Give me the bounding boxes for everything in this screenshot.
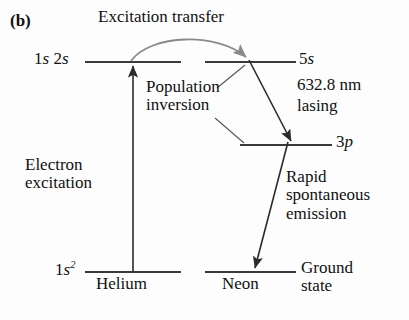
ground-state-label: Groundstate [301,259,353,296]
population-inversion-line-1: Population [146,77,220,96]
neon-3p-orbital: p [345,132,354,151]
neon-5s-orbital: s [308,49,315,68]
helium-ground-superscript: 2 [70,259,75,270]
ground-state-line-2: state [301,276,332,295]
spontaneous-emission-line-1: Rapid [286,167,327,186]
population-inversion-label: Populationinversion [146,78,220,115]
leader-line-population [217,65,245,88]
helium-ground-prefix: 1 [55,260,64,279]
atom-label-helium: Helium [96,275,147,293]
lasing-label: lasing [297,97,338,115]
energy-level-diagram-figure: (b) Excitation transfer 1s 2s 5s 632.8 n… [0,0,409,320]
spontaneous-emission-label: Rapidspontaneousemission [286,168,370,223]
spontaneous-emission-arrow [255,142,288,268]
excitation-transfer-label: Excitation transfer [98,8,224,26]
level-label-neon-3p: 3p [336,133,353,151]
electron-excitation-label: Electronexcitation [25,156,92,193]
excitation-transfer-arrow [131,39,246,61]
helium-excited-orbital-s2: s [62,49,69,68]
lasing-wavelength-label: 632.8 nm [297,76,361,94]
neon-3p-number: 3 [336,132,345,151]
spontaneous-emission-line-3: emission [286,204,346,223]
spontaneous-emission-line-2: spontaneous [286,185,370,204]
atom-label-neon: Neon [222,275,259,293]
level-label-helium-ground: 1s2 [55,259,75,279]
panel-letter: (b) [10,12,31,30]
level-label-neon-5s: 5s [299,50,314,68]
lasing-transition-arrow [249,60,291,141]
helium-excited-mid: 2 [49,49,62,68]
level-label-helium-excited: 1s 2s [34,50,69,68]
electron-excitation-line-1: Electron [25,155,83,174]
population-inversion-line-2: inversion [146,95,209,114]
electron-excitation-line-2: excitation [25,173,92,192]
leader-line-inversion [215,118,244,143]
ground-state-line-1: Ground [301,258,353,277]
neon-5s-number: 5 [299,49,308,68]
helium-excited-prefix: 1 [34,49,43,68]
